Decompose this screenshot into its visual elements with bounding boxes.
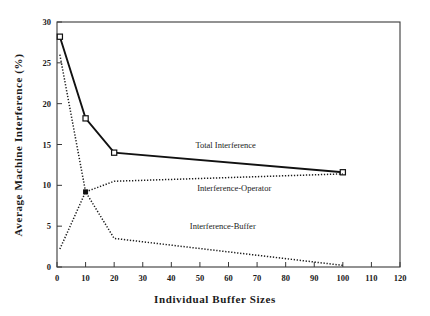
x-tick-label: 40 bbox=[167, 273, 176, 283]
y-tick-label: 0 bbox=[47, 262, 51, 272]
data-point-marker bbox=[112, 150, 117, 155]
series-label-interference-operator: Interference-Operator bbox=[197, 183, 271, 193]
x-tick-label: 50 bbox=[196, 273, 205, 283]
y-tick-label: 20 bbox=[43, 99, 52, 109]
x-tick-label: 120 bbox=[394, 273, 407, 283]
series-label-total-interference: Total Interference bbox=[195, 140, 256, 150]
y-axis: 051015202530 bbox=[43, 17, 63, 272]
series-annotations: Total InterferenceInterference-OperatorI… bbox=[190, 140, 272, 232]
series-line-total-interference bbox=[60, 37, 343, 173]
x-tick-label: 90 bbox=[310, 273, 319, 283]
x-tick-label: 100 bbox=[336, 273, 349, 283]
x-tick-label: 80 bbox=[281, 273, 290, 283]
data-point-marker bbox=[83, 116, 88, 121]
y-tick-label: 10 bbox=[43, 180, 52, 190]
x-tick-label: 60 bbox=[224, 273, 233, 283]
x-tick-label: 30 bbox=[139, 273, 148, 283]
x-axis: 0102030405060708090100110120 bbox=[55, 262, 407, 283]
x-tick-label: 20 bbox=[110, 273, 119, 283]
y-tick-label: 5 bbox=[47, 221, 51, 231]
line-chart: 051015202530 010203040506070809010011012… bbox=[0, 0, 430, 316]
y-tick-label: 25 bbox=[43, 58, 52, 68]
y-tick-label: 30 bbox=[43, 17, 52, 27]
series-label-interference-buffer: Interference-Buffer bbox=[190, 221, 256, 231]
data-point-marker bbox=[57, 34, 62, 39]
x-axis-title: Individual Buffer Sizes bbox=[154, 293, 276, 305]
y-axis-title: Average Machine Interference (%) bbox=[12, 54, 25, 237]
x-tick-label: 110 bbox=[365, 273, 377, 283]
x-tick-label: 70 bbox=[253, 273, 262, 283]
crossing-point-marker bbox=[84, 190, 88, 194]
x-tick-label: 10 bbox=[81, 273, 90, 283]
y-tick-label: 15 bbox=[43, 140, 52, 150]
chart-container: 051015202530 010203040506070809010011012… bbox=[0, 0, 430, 316]
x-tick-label: 0 bbox=[55, 273, 59, 283]
